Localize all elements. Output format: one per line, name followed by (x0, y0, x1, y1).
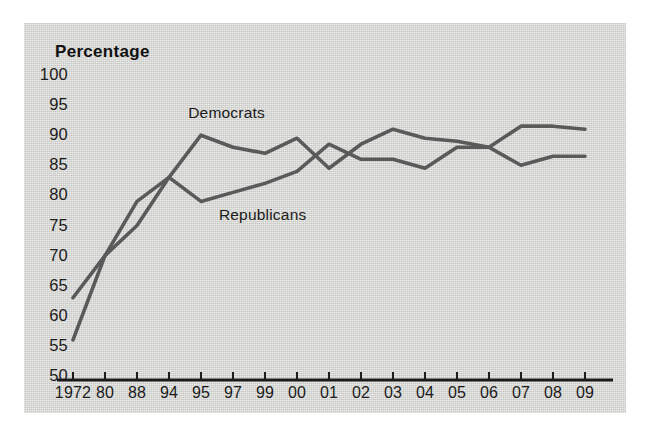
axis-group (57, 372, 613, 380)
series-group (73, 126, 585, 340)
chart-figure: Percentage 10095908580757065605550 19728… (0, 0, 650, 436)
plot-lines (0, 0, 650, 436)
series-line-democrats (73, 126, 585, 298)
series-line-republicans (73, 144, 585, 340)
